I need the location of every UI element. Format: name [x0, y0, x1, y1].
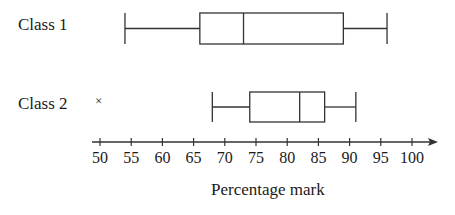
x-tick-label: 85 — [310, 149, 326, 167]
x-axis-label: Percentage mark — [211, 180, 325, 200]
class-1-box — [200, 13, 344, 44]
x-tick-label: 70 — [217, 149, 233, 167]
class-2-box — [250, 92, 325, 122]
x-tick-label: 60 — [154, 149, 170, 167]
x-tick-label: 95 — [373, 149, 389, 167]
x-tick-label: 100 — [400, 149, 424, 167]
x-tick-label: 80 — [279, 149, 295, 167]
x-tick-label: 65 — [186, 149, 202, 167]
x-tick-label: 55 — [123, 149, 139, 167]
x-tick-label: 75 — [248, 149, 264, 167]
x-tick-label: 90 — [342, 149, 358, 167]
x-tick-label: 50 — [92, 149, 108, 167]
